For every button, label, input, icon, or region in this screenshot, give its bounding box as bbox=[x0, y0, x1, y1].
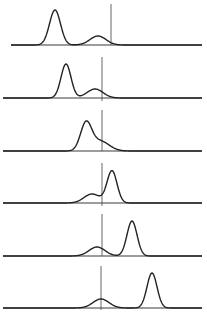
panel-4 bbox=[3, 163, 202, 206]
density-curve bbox=[3, 121, 202, 151]
density-curve bbox=[3, 273, 202, 308]
panel-6 bbox=[3, 266, 202, 310]
panels-group bbox=[3, 4, 202, 310]
panel-3 bbox=[3, 110, 202, 151]
panel-5 bbox=[3, 214, 202, 256]
panel-2 bbox=[3, 57, 202, 101]
panel-1 bbox=[11, 4, 202, 45]
stacked-density-chart bbox=[0, 0, 207, 324]
density-curve bbox=[3, 171, 202, 203]
density-curve bbox=[11, 10, 202, 45]
density-curve bbox=[3, 221, 202, 256]
density-curve bbox=[3, 64, 202, 98]
